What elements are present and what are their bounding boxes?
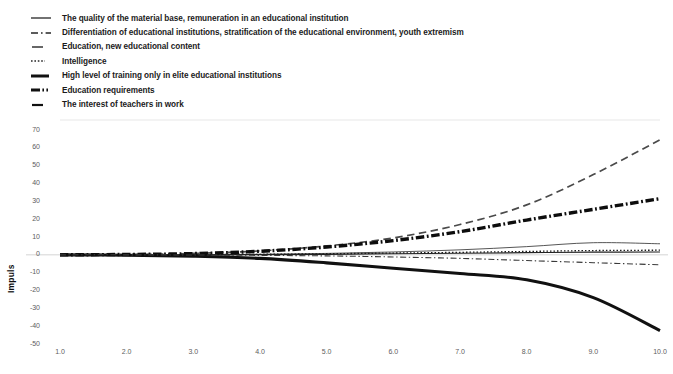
x-tick-label: 6.0 — [377, 348, 409, 355]
series-group — [60, 140, 660, 331]
chart-canvas — [0, 118, 673, 374]
y-tick-label: -10 — [20, 268, 40, 275]
y-tick-label: -40 — [20, 322, 40, 329]
x-tick-label: 7.0 — [444, 348, 476, 355]
x-tick-label: 9.0 — [577, 348, 609, 355]
y-tick-label: -50 — [20, 340, 40, 347]
legend-item: The interest of teachers in work — [30, 97, 630, 111]
line-solid-thin-icon — [30, 11, 56, 25]
x-tick-label: 1.0 — [44, 348, 76, 355]
y-axis-title: Impuls — [6, 264, 16, 293]
legend-item: Education requirements — [30, 83, 630, 97]
y-tick-label: 60 — [20, 143, 40, 150]
line-dashdot-thin-icon — [30, 26, 56, 40]
legend-item-label: The quality of the material base, remune… — [62, 14, 348, 23]
legend-item-label: Intelligence — [62, 57, 106, 66]
legend-item-label: The interest of teachers in work — [62, 100, 184, 109]
chart-figure: The quality of the material base, remune… — [0, 0, 673, 374]
y-tick-label: 10 — [20, 233, 40, 240]
x-tick-label: 3.0 — [177, 348, 209, 355]
x-tick-label: 4.0 — [244, 348, 276, 355]
legend-item: Differentiation of educational instituti… — [30, 25, 630, 39]
line-solid-bold-short-icon — [30, 98, 56, 112]
legend-item-label: Differentiation of educational instituti… — [62, 28, 464, 37]
y-tick-label: -20 — [20, 286, 40, 293]
y-tick-label: 40 — [20, 179, 40, 186]
x-tick-label: 10.0 — [644, 348, 673, 355]
y-tick-label: -30 — [20, 304, 40, 311]
y-tick-label: 0 — [20, 250, 40, 257]
line-dashdot-thick-icon — [30, 83, 56, 97]
series-line — [60, 255, 660, 331]
legend-item: Intelligence — [30, 54, 630, 68]
line-solid-thick-icon — [30, 69, 56, 83]
series-line — [60, 140, 660, 255]
x-tick-label: 5.0 — [311, 348, 343, 355]
y-tick-label: 70 — [20, 126, 40, 133]
line-solid-medium-icon — [30, 40, 56, 54]
line-dotted-icon — [30, 54, 56, 68]
x-tick-label: 8.0 — [511, 348, 543, 355]
legend-item: The quality of the material base, remune… — [30, 11, 630, 25]
y-tick-label: 20 — [20, 215, 40, 222]
series-line — [60, 199, 660, 255]
legend-item-label: Education requirements — [62, 86, 155, 95]
legend-item-label: High level of training only in elite edu… — [62, 71, 281, 80]
legend-item-label: Education, new educational content — [62, 42, 200, 51]
x-tick-label: 2.0 — [111, 348, 143, 355]
legend-item: Education, new educational content — [30, 40, 630, 54]
y-tick-label: 30 — [20, 197, 40, 204]
plot-frame — [26, 120, 668, 255]
chart-legend: The quality of the material base, remune… — [30, 11, 630, 112]
plot-area: 706050403020100-10-20-30-40-50 1.02.03.0… — [0, 118, 673, 374]
legend-item: High level of training only in elite edu… — [30, 69, 630, 83]
y-tick-label: 50 — [20, 161, 40, 168]
